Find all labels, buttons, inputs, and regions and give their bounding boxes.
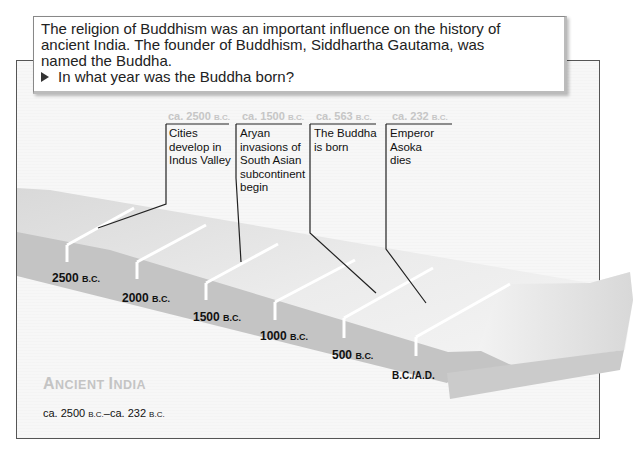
intro-text: The religion of Buddhism was an importan… xyxy=(41,21,511,69)
tick-label-1500bc: 1500 B.C. xyxy=(193,310,241,324)
event-date: ca. 563 B.C. xyxy=(316,110,372,122)
event-label: Aryan invasions of South Asian subcontin… xyxy=(240,127,310,195)
timeline-title: ANCIENT INDIA xyxy=(43,375,146,393)
question-text: In what year was the Buddha born? xyxy=(58,68,294,85)
tick-label-500bc: 500 B.C. xyxy=(332,348,373,362)
event-date: ca. 232 B.C. xyxy=(392,110,448,122)
question-row: In what year was the Buddha born? xyxy=(41,69,564,85)
question-card: The religion of Buddhism was an importan… xyxy=(33,16,567,94)
tick-label-1000bc: 1000 B.C. xyxy=(260,329,308,343)
event-label: Cities develop in Indus Valley xyxy=(169,127,231,168)
event-date: ca. 1500 B.C. xyxy=(242,110,304,122)
tick-label-2500bc: 2500 B.C. xyxy=(52,271,100,285)
timeline-range: ca. 2500 B.C.–ca. 232 B.C. xyxy=(43,407,165,419)
event-label: Emperor Asoka dies xyxy=(390,127,440,168)
event-date: ca. 2500 B.C. xyxy=(168,110,230,122)
right-triangle-bullet-icon xyxy=(41,72,49,82)
event-label: The Buddha is born xyxy=(314,127,380,154)
tick-label-bc-ad: B.C./A.D. xyxy=(392,368,435,382)
tick-label-2000bc: 2000 B.C. xyxy=(122,291,170,305)
